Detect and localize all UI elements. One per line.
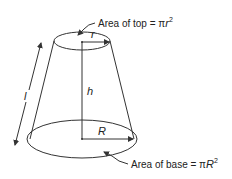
right-side-line xyxy=(110,41,134,139)
top-area-label: Area of top = πr2 xyxy=(98,16,173,29)
frustum-diagram: r R h l Area of top = πr2 Area of base =… xyxy=(0,0,232,179)
base-area-label: Area of base = πR2 xyxy=(131,157,218,170)
slant-height-label: l xyxy=(24,90,27,102)
slant-arrow-down xyxy=(15,102,26,145)
left-side-line xyxy=(30,41,54,139)
height-label: h xyxy=(87,85,93,97)
base-radius-label: R xyxy=(98,125,106,137)
top-radius-label: r xyxy=(91,28,96,40)
slant-arrow-up xyxy=(29,43,41,90)
